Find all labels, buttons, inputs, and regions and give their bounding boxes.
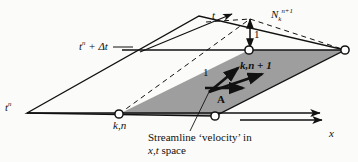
upper-time-level-suffix: + Δt — [85, 40, 107, 52]
node-upper-label: k,n + 1 — [240, 60, 272, 71]
t-axis-label: t — [212, 10, 215, 21]
node-k-n — [115, 110, 123, 118]
lower-time-level-superscript: n — [8, 100, 11, 107]
node-right-top — [341, 46, 349, 54]
vector-a-label: A — [217, 94, 225, 105]
unit-slant-label: 1 — [203, 67, 209, 78]
x-axis-label: x — [329, 128, 334, 139]
node-lower-label: k,n — [113, 120, 126, 131]
t-axis-line — [140, 14, 232, 52]
node-k-n-plus-1 — [245, 46, 253, 54]
caption-line-1: Streamline ‘velocity’ in — [148, 131, 252, 144]
figure-container: t x tn + Δt tn Nkn+1 1 1 k,n + 1 A k,n S… — [0, 0, 358, 162]
nodal-value-superscript: n+1 — [281, 7, 292, 14]
nodal-value-label: Nkn+1 — [271, 8, 293, 23]
upper-time-level-label: tn + Δt — [79, 40, 108, 52]
caption-space-coords: x,t — [148, 144, 159, 156]
caption-line-2: x,t space — [148, 144, 252, 157]
node-right-low — [211, 112, 219, 120]
streamline-caption: Streamline ‘velocity’ in x,t space — [148, 131, 252, 157]
caption-space-word: space — [161, 144, 185, 156]
nodal-value-subscript: k — [278, 15, 281, 22]
unit-height-label: 1 — [254, 29, 260, 40]
lower-time-level-label: tn — [5, 101, 11, 113]
